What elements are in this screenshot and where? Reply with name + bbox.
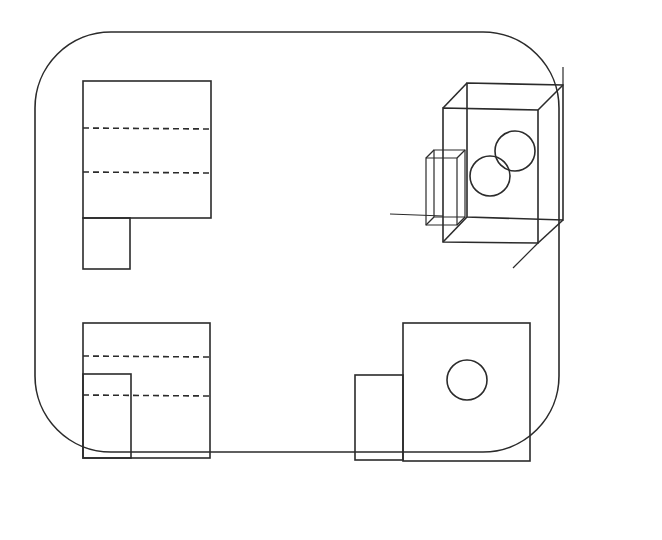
front-view-hidden-line-1: [83, 356, 210, 357]
top-view: [83, 81, 211, 269]
large-box-back-face: [467, 83, 563, 220]
drawing-canvas: [0, 0, 662, 540]
side-view-main-rect: [403, 323, 530, 461]
front-view-main-rect: [83, 323, 210, 458]
front-view-small-rect: [83, 374, 131, 458]
front-view: [83, 323, 210, 458]
side-view-small-rect: [355, 375, 403, 460]
isometric-view: [390, 67, 563, 268]
front-view-hidden-line-2: [83, 395, 210, 396]
top-view-main-rect: [83, 81, 211, 218]
axis-horizontal: [390, 214, 443, 216]
top-view-hidden-line-2: [83, 172, 211, 173]
side-view: [355, 323, 530, 461]
small-box-back-face: [434, 150, 465, 217]
small-box-edge: [426, 150, 434, 158]
axis-diagonal: [513, 243, 538, 268]
top-view-hidden-line-1: [83, 128, 211, 129]
iso-circle-back: [495, 131, 535, 171]
side-view-circle: [447, 360, 487, 400]
small-box-edge: [426, 217, 434, 225]
small-box-edge: [457, 150, 465, 158]
top-view-small-rect: [83, 218, 130, 269]
large-box-edge: [443, 217, 467, 242]
iso-circle-front: [470, 156, 510, 196]
large-box-edge: [443, 83, 467, 108]
